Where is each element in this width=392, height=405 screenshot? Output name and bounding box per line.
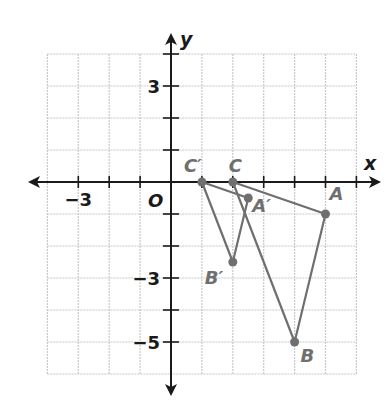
vertex-point xyxy=(321,210,330,219)
origin-label: O xyxy=(148,190,163,211)
grid xyxy=(47,54,356,374)
vertex-label: A xyxy=(328,183,344,204)
vertex-point xyxy=(228,258,237,267)
vertex-point xyxy=(290,338,299,347)
coordinate-plane-diagram: −33−3−5 ABCA′B′C′ x y O xyxy=(0,0,392,405)
vertex-label: B xyxy=(301,345,315,366)
vertex-point xyxy=(228,178,237,187)
vertex-label: B′ xyxy=(205,267,224,288)
vertex-point xyxy=(197,178,206,187)
vertex-label: C xyxy=(229,155,243,176)
y-axis-label: y xyxy=(180,28,194,50)
vertex-label: A′ xyxy=(250,195,271,216)
vertex-label: C′ xyxy=(184,155,202,176)
tick-label: 3 xyxy=(147,76,160,97)
tick-label: −3 xyxy=(64,189,92,210)
x-axis-label: x xyxy=(363,152,377,174)
tick-label: −5 xyxy=(132,332,160,353)
tick-label: −3 xyxy=(132,268,160,289)
triangle-abc xyxy=(202,182,248,262)
